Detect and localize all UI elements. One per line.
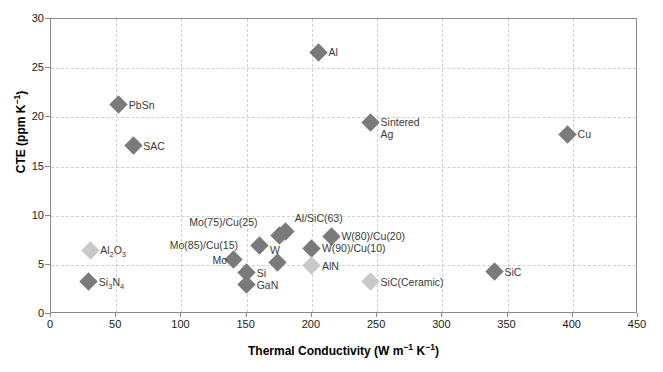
data-point-label: Cu [578, 128, 591, 140]
data-point-label: SiC(Ceramic) [381, 276, 444, 288]
gridline-vertical [573, 19, 574, 312]
x-tick-mark [441, 313, 442, 317]
x-tick-mark [376, 313, 377, 317]
y-tick-mark [45, 116, 50, 117]
data-point-label: Al/SiC(63) [295, 212, 343, 224]
gridline-vertical [377, 19, 378, 312]
data-point-label: W(90)/Cu(10) [322, 242, 386, 254]
data-point-marker [110, 95, 128, 113]
data-point-marker [80, 272, 98, 290]
x-tick-mark [507, 313, 508, 317]
x-tick-label: 250 [367, 318, 385, 330]
data-point-label: Mo [213, 254, 228, 266]
x-tick-label: 200 [302, 318, 320, 330]
y-axis-title: CTE (ppm K−1) [14, 32, 28, 232]
x-tick-label: 100 [171, 318, 189, 330]
x-tick-label: 0 [47, 318, 53, 330]
y-tick-mark [45, 166, 50, 167]
x-tick-mark [50, 313, 51, 317]
data-point-label: Si [257, 267, 266, 279]
y-tick-mark [45, 313, 50, 314]
x-tick-mark [246, 313, 247, 317]
data-point-label: W [270, 244, 280, 256]
data-point-label: Al [328, 46, 337, 58]
plot-area: AlPbSnSACSinteredAgCuAl2O3Si3N4Mo(75)/Cu… [50, 18, 637, 313]
data-point-label: PbSn [129, 99, 155, 111]
data-point-marker [237, 275, 255, 293]
x-tick-label: 50 [109, 318, 121, 330]
data-point-label: Al2O3 [100, 244, 126, 256]
data-point-label: SiC [505, 266, 522, 278]
x-tick-mark [180, 313, 181, 317]
y-tick-label: 5 [18, 258, 44, 270]
data-point-marker [81, 241, 99, 259]
gridline-horizontal [51, 167, 636, 168]
data-point-marker [303, 257, 321, 275]
x-tick-mark [115, 313, 116, 317]
gridline-horizontal [51, 68, 636, 69]
y-tick-mark [45, 215, 50, 216]
y-tick-label: 0 [18, 307, 44, 319]
x-tick-mark [637, 313, 638, 317]
data-point-marker [251, 236, 269, 254]
x-tick-label: 400 [563, 318, 581, 330]
data-point-label: GaN [257, 279, 279, 291]
data-point-label: SinteredAg [381, 116, 420, 140]
data-point-label: W(80)/Cu(20) [341, 230, 405, 242]
x-axis-title: Thermal Conductivity (W m−1 K−1) [50, 344, 637, 358]
scatter-plot-figure: AlPbSnSACSinteredAgCuAl2O3Si3N4Mo(75)/Cu… [0, 0, 663, 372]
x-tick-label: 300 [432, 318, 450, 330]
data-point-label: Mo(75)/Cu(25) [189, 216, 257, 228]
y-tick-mark [45, 18, 50, 19]
data-point-marker [124, 137, 142, 155]
data-point-marker [303, 239, 321, 257]
x-tick-label: 450 [628, 318, 646, 330]
gridline-horizontal [51, 216, 636, 217]
data-point-label: AlN [322, 260, 339, 272]
gridline-vertical [181, 19, 182, 312]
data-point-label: SAC [143, 140, 165, 152]
x-tick-label: 350 [497, 318, 515, 330]
y-tick-mark [45, 67, 50, 68]
gridline-horizontal [51, 117, 636, 118]
x-tick-label: 150 [236, 318, 254, 330]
data-point-marker [558, 125, 576, 143]
data-point-marker [269, 254, 287, 272]
y-tick-mark [45, 264, 50, 265]
x-tick-mark [572, 313, 573, 317]
data-point-label: Si3N4 [99, 276, 124, 288]
gridline-horizontal [51, 265, 636, 266]
x-tick-mark [311, 313, 312, 317]
y-tick-label: 30 [18, 12, 44, 24]
gridline-vertical [442, 19, 443, 312]
data-point-label: Mo(85)/Cu(15) [170, 239, 238, 251]
gridline-vertical [116, 19, 117, 312]
